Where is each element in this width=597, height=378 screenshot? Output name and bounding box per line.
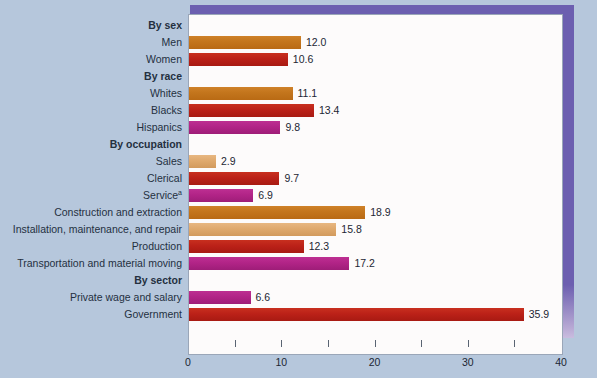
x-tick-label-0: 0 <box>185 356 191 368</box>
group-heading-by-sector: By sector <box>134 272 188 289</box>
bar-label-men: Men <box>162 34 188 51</box>
x-tick-major-30 <box>468 340 469 347</box>
x-tick-minor-35 <box>514 340 515 347</box>
bar-label-women: Women <box>146 51 188 68</box>
bar-label-service: Servicea <box>143 187 188 204</box>
x-tick-minor-15 <box>328 340 329 347</box>
bar-label-blacks: Blacks <box>151 102 188 119</box>
chart-figure: By sexMen12.0Women10.6By raceWhites11.1B… <box>0 0 597 378</box>
x-tick-minor-25 <box>421 340 422 347</box>
x-tick-label-10: 10 <box>275 356 287 368</box>
x-tick-label-40: 40 <box>555 356 567 368</box>
group-heading-by-sex: By sex <box>148 17 188 34</box>
bar-label-private-wage-and-salary: Private wage and salary <box>70 289 188 306</box>
bar-label-sales: Sales <box>156 153 188 170</box>
group-heading-by-race: By race <box>144 68 188 85</box>
x-axis: 010203040 <box>188 340 563 378</box>
decorative-frame-right <box>563 5 574 338</box>
bar-label-transportation-and-material-moving: Transportation and material moving <box>17 255 188 272</box>
bar-label-hispanics: Hispanics <box>136 119 188 136</box>
bar-label-installation-maintenance-and-repair: Installation, maintenance, and repair <box>13 221 188 238</box>
bar-label-government: Government <box>124 306 188 323</box>
x-tick-major-10 <box>281 340 282 347</box>
bar-label-production: Production <box>132 238 188 255</box>
x-tick-label-30: 30 <box>462 356 474 368</box>
bar-label-clerical: Clerical <box>147 170 188 187</box>
plot-area <box>188 14 563 355</box>
x-axis-line <box>188 340 563 341</box>
x-tick-major-20 <box>375 340 376 347</box>
x-tick-label-20: 20 <box>369 356 381 368</box>
group-heading-by-occupation: By occupation <box>110 136 188 153</box>
bar-label-construction-and-extraction: Construction and extraction <box>54 204 188 221</box>
bar-label-whites: Whites <box>150 85 188 102</box>
footnote-marker: a <box>178 189 182 196</box>
x-tick-minor-5 <box>235 340 236 347</box>
